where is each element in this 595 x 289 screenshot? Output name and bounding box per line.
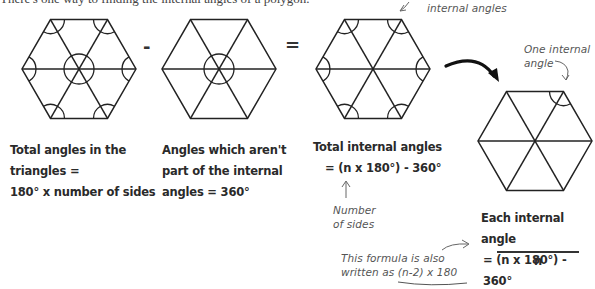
annotation-line: Number: [333, 203, 376, 217]
curved-arrow-icon: [446, 61, 499, 82]
pointer-arrow-internal-icon: [400, 2, 409, 11]
annotation-number-of-sides: Number of sides: [333, 203, 376, 231]
equals-operator: =: [285, 34, 300, 55]
annotation-line: written as (n-2) x 180: [341, 265, 457, 279]
caption-line: part of the internal: [162, 161, 286, 182]
caption-line: Total angles in the: [10, 140, 155, 161]
hexagon-one-angle: [478, 92, 592, 191]
caption-formula: = (n x 180°) - 360°: [313, 158, 442, 179]
polygon-angles-diagram: There's one way to finding the internal …: [0, 0, 595, 289]
caption-line: 180° x number of sides: [10, 182, 155, 203]
caption-each-internal: Each internal angle = (n x 180°) - 360°: [481, 208, 595, 289]
caption-line: Angles which aren't: [162, 140, 286, 161]
pointer-arrow-number-sides-icon: [342, 181, 350, 198]
pointer-arrow-formula-icon: [442, 240, 469, 250]
annotation-internal-angles: internal angles: [427, 1, 507, 15]
caption-not-internal: Angles which aren't part of the internal…: [162, 140, 286, 203]
formula-underline: [398, 282, 467, 285]
caption-line: Each internal angle: [481, 208, 595, 250]
caption-total-triangles: Total angles in the triangles = 180° x n…: [10, 140, 155, 203]
annotation-line: of sides: [333, 217, 376, 231]
annotation-one-internal-angle: One internal angle: [524, 42, 590, 70]
annotation-line: One internal: [524, 42, 590, 56]
alternate-formula: (n-2) x 180: [398, 266, 457, 278]
hexagon-center-angles: [162, 20, 276, 119]
caption-line: triangles =: [10, 161, 155, 182]
formula-denominator: n: [534, 251, 542, 272]
hexagon-internal-angles: [316, 20, 430, 119]
caption-total-internal: Total internal angles = (n x 180°) - 360…: [313, 137, 442, 179]
annotation-line: angle: [524, 56, 590, 70]
hexagon-all-angles: [22, 20, 136, 119]
annotation-formula-note: This formula is also written as (n-2) x …: [341, 251, 457, 279]
annotation-line: This formula is also: [341, 251, 457, 265]
minus-operator: -: [143, 36, 150, 57]
caption-line: Total internal angles: [313, 137, 442, 158]
annotation-prefix: written as: [341, 266, 398, 278]
caption-line: angles = 360°: [162, 182, 286, 203]
